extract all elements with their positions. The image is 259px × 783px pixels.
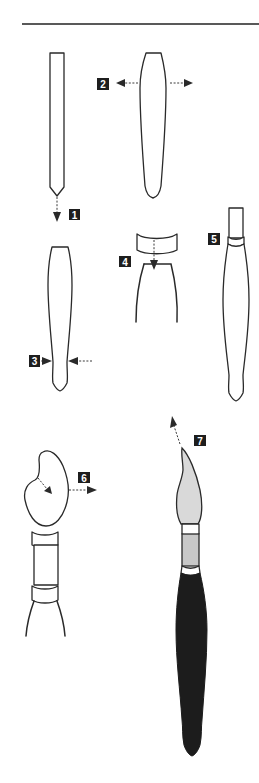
step-7-finished-brush: 7 [170,416,207,756]
arrow-right-icon [87,486,97,494]
arrow-in-right-icon [42,357,52,365]
svg-text:3: 3 [32,356,38,367]
arrow-up-icon [170,416,177,428]
svg-text:6: 6 [81,473,87,484]
step-2-badge: 2 [97,78,109,90]
svg-text:1: 1 [72,210,78,221]
step-2-tapered-stick: 2 [97,53,193,198]
svg-text:7: 7 [197,436,203,447]
arrow-left-icon [116,79,125,87]
arrow-right-icon [184,79,193,87]
step-5-handle: 5 [208,208,249,401]
step-5-badge: 5 [208,233,220,245]
paintbrush-steps-diagram: 1 2 3 4 [0,0,259,783]
step-4-badge: 4 [119,256,131,268]
step-1-stick: 1 [50,53,80,222]
step-3-badge: 3 [29,355,40,367]
svg-text:5: 5 [211,234,217,245]
arrow-down-icon [53,212,61,222]
svg-text:4: 4 [122,257,128,268]
step-3-narrowed-stick: 3 [29,247,92,391]
step-7-badge: 7 [194,435,206,447]
step-6-bristle-head: 6 [25,451,97,636]
step-4-ferrule-fit: 4 [119,234,177,322]
svg-text:2: 2 [100,79,106,90]
arrow-down-icon [150,260,158,270]
arrow-in-left-icon [68,357,78,365]
step-6-badge: 6 [78,472,90,484]
step-1-badge: 1 [69,209,80,221]
